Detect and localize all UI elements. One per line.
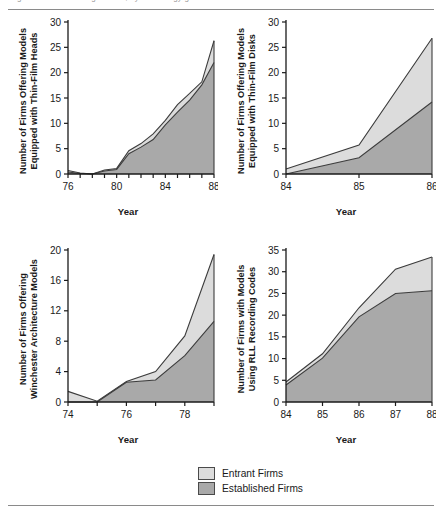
svg-text:25: 25 bbox=[268, 42, 280, 53]
svg-text:84: 84 bbox=[280, 181, 292, 192]
x-axis-title-4: Year bbox=[256, 434, 436, 445]
svg-text:78: 78 bbox=[179, 409, 191, 420]
area-chart-2: 051015202530848586 bbox=[256, 14, 436, 204]
svg-text:10: 10 bbox=[268, 118, 280, 129]
bottom-rule bbox=[8, 505, 434, 506]
legend-item-entrant: Entrant Firms bbox=[198, 466, 348, 480]
svg-text:15: 15 bbox=[268, 331, 280, 342]
y-axis-label-1-line1: Number of Firms Offering Models bbox=[18, 16, 29, 186]
svg-text:15: 15 bbox=[50, 93, 62, 104]
svg-text:0: 0 bbox=[55, 169, 61, 180]
svg-text:84: 84 bbox=[160, 181, 172, 192]
svg-text:88: 88 bbox=[426, 409, 436, 420]
svg-text:86: 86 bbox=[353, 409, 365, 420]
svg-text:84: 84 bbox=[280, 409, 292, 420]
svg-text:15: 15 bbox=[268, 93, 280, 104]
svg-text:8: 8 bbox=[55, 336, 61, 347]
x-axis-title-3: Year bbox=[38, 434, 218, 445]
legend-label-entrant: Entrant Firms bbox=[222, 468, 283, 479]
top-rule bbox=[8, 9, 434, 10]
plot-area-1: 05101520253076808488 bbox=[38, 14, 218, 204]
svg-text:30: 30 bbox=[268, 266, 280, 277]
svg-text:76: 76 bbox=[62, 181, 74, 192]
plot-area-3: 048121620747678 bbox=[38, 242, 218, 432]
svg-text:16: 16 bbox=[50, 275, 62, 286]
y-axis-label-3-line1: Number of Firms Offering bbox=[18, 244, 29, 414]
svg-text:0: 0 bbox=[273, 397, 279, 408]
svg-text:35: 35 bbox=[268, 245, 280, 256]
svg-text:20: 20 bbox=[50, 245, 62, 256]
plot-area-2: 051015202530848586 bbox=[256, 14, 436, 204]
x-axis-title-1: Year bbox=[38, 206, 218, 217]
legend-item-established: Established Firms bbox=[198, 481, 348, 495]
svg-text:0: 0 bbox=[55, 397, 61, 408]
svg-text:86: 86 bbox=[426, 181, 436, 192]
svg-text:20: 20 bbox=[268, 67, 280, 78]
cropped-header-text: Figure — firms offering models, by techn… bbox=[10, 0, 224, 2]
svg-text:30: 30 bbox=[50, 17, 62, 28]
y-axis-label-4-line1: Number of Firms with Models bbox=[236, 244, 247, 414]
svg-text:74: 74 bbox=[62, 409, 74, 420]
area-chart-1: 05101520253076808488 bbox=[38, 14, 218, 204]
legend-swatch-entrant-icon bbox=[198, 467, 215, 480]
svg-text:20: 20 bbox=[50, 67, 62, 78]
svg-text:10: 10 bbox=[50, 118, 62, 129]
svg-text:88: 88 bbox=[208, 181, 218, 192]
svg-text:30: 30 bbox=[268, 17, 280, 28]
svg-text:10: 10 bbox=[268, 353, 280, 364]
legend: Entrant Firms Established Firms bbox=[198, 466, 348, 496]
svg-text:87: 87 bbox=[390, 409, 402, 420]
area-chart-3: 048121620747678 bbox=[38, 242, 218, 432]
svg-text:5: 5 bbox=[273, 375, 279, 386]
svg-text:80: 80 bbox=[111, 181, 123, 192]
svg-text:76: 76 bbox=[121, 409, 133, 420]
cropped-header-region: Figure — firms offering models, by techn… bbox=[0, 0, 442, 8]
legend-swatch-established-icon bbox=[198, 482, 215, 495]
svg-text:0: 0 bbox=[273, 169, 279, 180]
y-axis-label-2-line1: Number of Firms Offering Models bbox=[236, 16, 247, 186]
x-axis-title-2: Year bbox=[256, 206, 436, 217]
svg-text:12: 12 bbox=[50, 305, 62, 316]
svg-text:4: 4 bbox=[55, 366, 61, 377]
svg-text:85: 85 bbox=[353, 181, 365, 192]
svg-text:25: 25 bbox=[268, 288, 280, 299]
figure-canvas: Figure — firms offering models, by techn… bbox=[0, 0, 442, 516]
plot-area-4: 051015202530358485868788 bbox=[256, 242, 436, 432]
svg-text:5: 5 bbox=[273, 143, 279, 154]
svg-text:5: 5 bbox=[55, 143, 61, 154]
legend-label-established: Established Firms bbox=[222, 483, 303, 494]
svg-text:85: 85 bbox=[317, 409, 329, 420]
svg-text:25: 25 bbox=[50, 42, 62, 53]
svg-text:20: 20 bbox=[268, 310, 280, 321]
area-chart-4: 051015202530358485868788 bbox=[256, 242, 436, 432]
